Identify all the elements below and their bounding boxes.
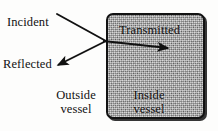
incident-ray-arrow <box>57 14 106 41</box>
diagram-figure: Incident Reflected Transmitted Outside v… <box>0 0 218 131</box>
label-reflected: Reflected <box>3 58 52 71</box>
label-outside-line1: Outside <box>50 88 102 102</box>
label-outside-line2: vessel <box>50 102 102 116</box>
label-outside-vessel: Outside vessel <box>50 88 102 116</box>
label-transmitted: Transmitted <box>119 24 180 37</box>
reflected-ray-arrow <box>58 41 106 65</box>
label-inside-line1: Inside <box>127 88 171 102</box>
label-inside-line2: vessel <box>127 102 171 116</box>
label-inside-vessel: Inside vessel <box>127 88 171 116</box>
label-incident: Incident <box>7 16 49 29</box>
